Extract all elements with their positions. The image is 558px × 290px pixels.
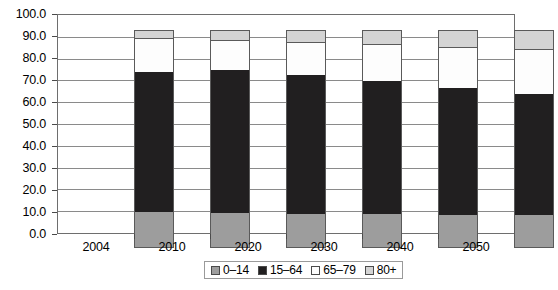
x-tick-label: 2050	[462, 240, 489, 254]
x-tick-mark	[286, 234, 287, 239]
chart-legend: 0–1415–6465–7980+	[204, 261, 403, 279]
y-tick-label: 0.0	[29, 227, 52, 241]
bar-segment[interactable]	[210, 41, 250, 70]
bar-group[interactable]	[514, 30, 554, 248]
x-tick-mark	[438, 234, 439, 239]
bar-segment[interactable]	[134, 39, 174, 72]
legend-swatch-icon	[258, 266, 267, 275]
bar-segment[interactable]	[362, 81, 402, 214]
legend-item[interactable]: 65–79	[311, 263, 355, 277]
x-tick-mark	[210, 234, 211, 239]
bar-group[interactable]	[134, 30, 174, 248]
bars-layer	[116, 30, 558, 248]
bar-segment[interactable]	[362, 45, 402, 81]
plot-area	[57, 14, 515, 234]
bar-group[interactable]	[210, 30, 250, 248]
bar-stack	[362, 30, 402, 248]
bar-segment[interactable]	[210, 70, 250, 213]
bar-group[interactable]	[362, 30, 402, 248]
y-tick-label: 20.0	[22, 183, 52, 197]
bar-segment[interactable]	[134, 30, 174, 39]
y-tick-label: 40.0	[22, 139, 52, 153]
x-tick-mark	[134, 234, 135, 239]
legend-item[interactable]: 15–64	[258, 263, 302, 277]
bar-segment[interactable]	[438, 30, 478, 48]
bar-segment[interactable]	[286, 43, 326, 75]
x-tick-label: 2010	[158, 240, 185, 254]
y-tick-label: 30.0	[22, 161, 52, 175]
y-axis: 0.010.020.030.040.050.060.070.080.090.01…	[0, 14, 52, 234]
bar-segment[interactable]	[134, 72, 174, 212]
x-axis: 200420102020203020402050	[57, 234, 515, 258]
x-tick-label: 2040	[386, 240, 413, 254]
legend-label: 15–64	[270, 263, 302, 277]
legend-label: 0–14	[223, 263, 249, 277]
y-tick-label: 10.0	[22, 205, 52, 219]
y-tick-label: 80.0	[22, 51, 52, 65]
legend-label: 65–79	[323, 263, 355, 277]
x-tick-label: 2020	[234, 240, 261, 254]
legend-swatch-icon	[211, 266, 220, 275]
x-tick-mark	[362, 234, 363, 239]
bar-stack	[134, 30, 174, 248]
legend-item[interactable]: 0–14	[211, 263, 249, 277]
bar-segment[interactable]	[362, 30, 402, 45]
y-tick-label: 70.0	[22, 73, 52, 87]
bar-stack	[514, 30, 554, 248]
bar-segment[interactable]	[438, 88, 478, 215]
x-tick-label: 2030	[310, 240, 337, 254]
bar-group[interactable]	[286, 30, 326, 248]
legend-swatch-icon	[311, 266, 320, 275]
y-tick-label: 50.0	[22, 117, 52, 131]
legend-label: 80+	[377, 263, 397, 277]
bar-group[interactable]	[438, 30, 478, 248]
bar-stack	[286, 30, 326, 248]
x-tick-label: 2004	[82, 240, 109, 254]
y-tick-label: 90.0	[22, 29, 52, 43]
bar-segment[interactable]	[286, 75, 326, 214]
bar-segment[interactable]	[286, 30, 326, 43]
legend-swatch-icon	[365, 266, 374, 275]
bar-stack	[438, 30, 478, 248]
legend-item[interactable]: 80+	[365, 263, 397, 277]
y-tick-label: 60.0	[22, 95, 52, 109]
bar-segment[interactable]	[438, 48, 478, 88]
bar-segment[interactable]	[210, 30, 250, 41]
y-tick-label: 100.0	[16, 7, 52, 21]
bar-segment[interactable]	[514, 30, 554, 50]
bar-segment[interactable]	[514, 94, 554, 215]
bar-segment[interactable]	[514, 50, 554, 94]
bar-stack	[210, 30, 250, 248]
bar-segment[interactable]	[514, 215, 554, 248]
